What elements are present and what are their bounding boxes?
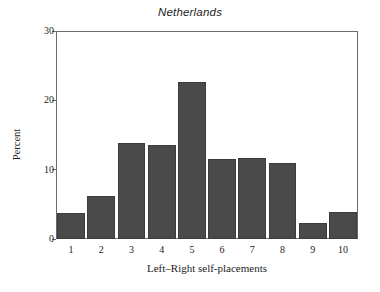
x-tick-label-6: 6	[207, 244, 237, 255]
x-tick-label-9: 9	[298, 244, 328, 255]
y-tick-label-10: 10	[44, 165, 54, 175]
y-axis-title: Percent	[9, 110, 23, 180]
x-tick-label-3: 3	[116, 244, 146, 255]
chart-title: Netherlands	[0, 6, 380, 18]
bar-4	[148, 145, 176, 239]
y-tick-label-30: 30	[44, 26, 54, 36]
bar-5	[178, 82, 206, 239]
x-tick-label-7: 7	[237, 244, 267, 255]
chart-figure: Netherlands Percent Left–Right self-plac…	[0, 0, 380, 292]
x-tick-label-8: 8	[267, 244, 297, 255]
x-tick-label-2: 2	[86, 244, 116, 255]
bar-10	[329, 212, 357, 239]
bar-2	[87, 196, 115, 239]
x-tick-label-10: 10	[328, 244, 358, 255]
x-axis-title: Left–Right self-placements	[56, 262, 358, 274]
y-tick-label-20: 20	[44, 95, 54, 105]
bar-6	[208, 159, 236, 239]
bar-1	[57, 213, 85, 239]
x-tick-label-4: 4	[147, 244, 177, 255]
y-tick-label-0: 0	[49, 234, 54, 244]
y-axis-title-label: Percent	[11, 121, 22, 169]
x-tick-label-5: 5	[177, 244, 207, 255]
bar-8	[269, 163, 297, 239]
bar-3	[118, 143, 146, 239]
x-tick-label-1: 1	[56, 244, 86, 255]
plot-area	[56, 31, 358, 239]
bar-9	[299, 223, 327, 239]
bar-7	[238, 158, 266, 239]
